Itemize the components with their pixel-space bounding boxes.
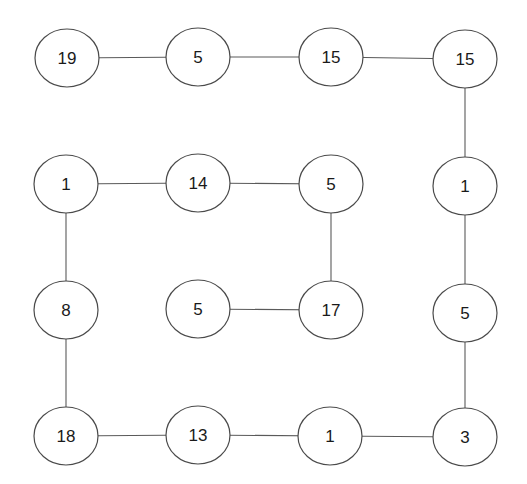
node-r3c1: 8 [34, 281, 98, 339]
node-label: 5 [193, 300, 202, 319]
node-label: 5 [460, 304, 469, 323]
node-r2c4: 1 [433, 157, 497, 215]
node-label: 8 [61, 301, 70, 320]
node-label: 1 [61, 175, 70, 194]
nodes-layer: 19515151145185175181313 [34, 28, 497, 466]
node-label: 13 [189, 426, 208, 445]
node-r3c3: 17 [299, 281, 363, 339]
node-r2c1: 1 [34, 155, 98, 213]
node-label: 19 [58, 49, 77, 68]
graph-diagram: 19515151145185175181313 [0, 0, 527, 484]
node-r1c2: 5 [166, 28, 230, 86]
node-r4c4: 3 [433, 408, 497, 466]
edges-layer [66, 57, 465, 437]
node-label: 5 [193, 48, 202, 67]
node-r3c4: 5 [433, 284, 497, 342]
node-label: 3 [460, 428, 469, 447]
node-r1c4: 15 [433, 30, 497, 88]
node-r4c3: 1 [298, 407, 362, 465]
node-r1c1: 19 [35, 29, 99, 87]
node-label: 5 [326, 175, 335, 194]
node-r4c2: 13 [166, 406, 230, 464]
node-r3c2: 5 [166, 280, 230, 338]
node-label: 17 [322, 301, 341, 320]
node-r2c3: 5 [299, 155, 363, 213]
node-label: 1 [460, 177, 469, 196]
node-r1c3: 15 [299, 28, 363, 86]
node-label: 1 [325, 427, 334, 446]
node-label: 15 [322, 48, 341, 67]
node-label: 14 [189, 174, 208, 193]
node-r4c1: 18 [34, 407, 98, 465]
node-r2c2: 14 [166, 154, 230, 212]
node-label: 15 [456, 50, 475, 69]
node-label: 18 [57, 427, 76, 446]
